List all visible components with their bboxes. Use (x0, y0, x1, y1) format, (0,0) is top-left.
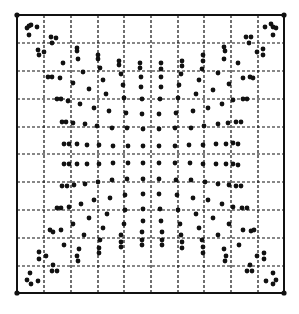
dot (75, 254, 80, 259)
dot (140, 243, 145, 248)
dot (140, 97, 145, 102)
dot (79, 202, 84, 207)
dot (25, 278, 30, 283)
dot (37, 53, 42, 58)
dot (211, 216, 216, 221)
dot (224, 254, 229, 259)
dot (122, 222, 127, 227)
diagram-canvas (0, 0, 299, 314)
dot (58, 76, 63, 81)
dot (248, 263, 253, 268)
dot (227, 82, 232, 87)
dot (203, 180, 208, 185)
dot (66, 99, 71, 104)
dot (83, 122, 88, 127)
dot (271, 271, 276, 276)
corner-marker (14, 290, 19, 295)
dot (239, 120, 244, 125)
dot (274, 278, 279, 283)
dot-grid-diagram (0, 0, 299, 314)
dot (67, 142, 72, 147)
dot (178, 222, 183, 227)
dot (62, 243, 67, 248)
dot (119, 240, 124, 245)
dot (95, 124, 100, 129)
dot (67, 205, 72, 210)
dot (244, 35, 249, 40)
dot (158, 207, 163, 212)
dot (251, 76, 256, 81)
dot (194, 212, 199, 217)
dot (141, 161, 146, 166)
dot (123, 208, 128, 213)
dot (97, 251, 102, 256)
dot (220, 102, 225, 107)
dot (245, 269, 250, 274)
dot (75, 142, 80, 147)
square-frame (14, 12, 286, 295)
dot (222, 57, 227, 62)
dot (71, 81, 76, 86)
dot (261, 53, 266, 58)
dot (108, 196, 113, 201)
dot (37, 257, 42, 262)
dot (231, 141, 236, 146)
dot (85, 143, 90, 148)
dot (85, 162, 90, 167)
dot (180, 64, 185, 69)
dot (60, 184, 65, 189)
dot (252, 228, 257, 233)
dot (176, 208, 181, 213)
dot (141, 207, 146, 212)
dot (191, 196, 196, 201)
dot (216, 233, 221, 238)
dot (216, 122, 221, 127)
dot (67, 162, 72, 167)
dot (36, 279, 41, 284)
dot (138, 61, 143, 66)
dot (42, 50, 47, 55)
dot (201, 251, 206, 256)
dot (92, 198, 97, 203)
dot (173, 126, 178, 131)
dot (179, 72, 184, 77)
corner-marker (281, 290, 286, 295)
dot (180, 59, 185, 64)
dot (201, 162, 206, 167)
dot (111, 144, 116, 149)
dot (241, 228, 246, 233)
dot (201, 143, 206, 148)
dot (231, 162, 236, 167)
dot (28, 271, 33, 276)
dot (239, 184, 244, 189)
dot (27, 33, 32, 38)
dot (61, 61, 66, 66)
dot (140, 112, 145, 117)
dot (125, 126, 130, 131)
dot (197, 226, 202, 231)
dot (81, 70, 86, 75)
dot (50, 41, 55, 46)
dot (255, 50, 260, 55)
dot (139, 75, 144, 80)
dot (274, 26, 279, 31)
dot (101, 226, 106, 231)
dot (97, 162, 102, 167)
dot (206, 106, 211, 111)
dot (141, 144, 146, 149)
dot (37, 250, 42, 255)
dot (104, 92, 109, 97)
dot (124, 111, 129, 116)
dot (36, 48, 41, 53)
dot (96, 180, 101, 185)
dot (224, 142, 229, 147)
dot (59, 97, 64, 102)
dot (240, 206, 245, 211)
dot (159, 67, 164, 72)
dot (140, 230, 145, 235)
dot (200, 67, 205, 72)
dot (201, 53, 206, 58)
dot (263, 25, 268, 30)
dot (157, 161, 162, 166)
dot (141, 219, 146, 224)
